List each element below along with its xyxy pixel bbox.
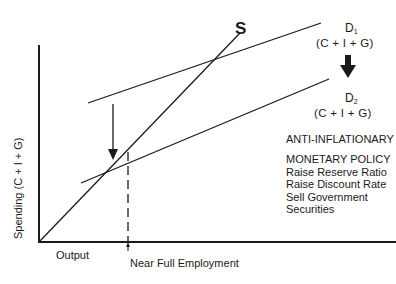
d1-name: D (345, 21, 354, 35)
demand-line-d1 (88, 23, 321, 103)
policy-item: Raise Reserve Ratio (286, 166, 394, 178)
policy-heading: ANTI-INFLATIONARY (286, 133, 394, 145)
policy-text-block: ANTI-INFLATIONARY MONETARY POLICY Raise … (286, 133, 394, 215)
d1-subscript: 1 (354, 28, 358, 35)
supply-label: S (235, 20, 246, 37)
policy-item: Sell Government (286, 191, 394, 203)
d2-subscript: 2 (354, 98, 358, 105)
d1-formula: (C + I + G) (316, 38, 374, 50)
full-employment-tick-head (126, 243, 130, 247)
shift-arrowhead (108, 149, 118, 160)
d2-name: D (345, 91, 354, 105)
policy-item: Raise Discount Rate (286, 178, 394, 190)
d2-label: D2 (345, 92, 358, 105)
supply-line-s (39, 33, 240, 242)
near-full-employment-label: Near Full Employment (130, 258, 239, 269)
y-axis-label: Spending (C + I + G) (13, 138, 24, 240)
down-arrow-icon (340, 55, 356, 79)
x-axis-label: Output (56, 250, 89, 261)
policy-subheading: MONETARY POLICY (286, 153, 394, 165)
d2-formula: (C + I + G) (314, 108, 372, 120)
d1-label: D1 (345, 22, 358, 35)
policy-item: Securities (286, 203, 394, 215)
